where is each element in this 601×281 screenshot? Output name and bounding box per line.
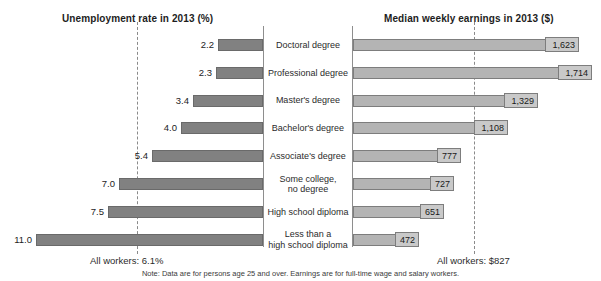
unemployment-bar — [218, 39, 263, 51]
earnings-value-label: 1,329 — [504, 93, 538, 108]
category-label: Professional degree — [266, 59, 350, 87]
earnings-value-label: 651 — [420, 204, 444, 219]
category-label: Doctoral degree — [266, 31, 350, 59]
all-workers-unemployment-label: All workers: 6.1% — [90, 255, 163, 266]
chart-row: 5.4Associate's degree777 — [0, 142, 601, 170]
right-panel-title: Median weekly earnings in 2013 ($) — [384, 13, 554, 24]
unemployment-bar — [36, 234, 263, 246]
chart-row: 2.2Doctoral degree1,623 — [0, 31, 601, 59]
unemployment-bar — [119, 178, 263, 190]
unemployment-value-label: 7.5 — [64, 205, 104, 219]
category-label: Master's degree — [266, 87, 350, 115]
unemployment-bar — [193, 95, 263, 107]
category-label-line: Doctoral degree — [276, 40, 340, 51]
unemployment-value-label: 5.4 — [108, 149, 148, 163]
all-workers-earnings-label: All workers: $827 — [437, 255, 510, 266]
unemployment-value-label: 3.4 — [149, 94, 189, 108]
chart-row: 7.0Some college,no degree727 — [0, 170, 601, 198]
education-pays-chart: Unemployment rate in 2013 (%) Median wee… — [0, 0, 601, 281]
chart-row: 2.3Professional degree1,714 — [0, 59, 601, 87]
category-label-line: Less than a — [285, 229, 332, 240]
unemployment-bar — [181, 122, 263, 134]
chart-row: 7.5High school diploma651 — [0, 198, 601, 226]
unemployment-bar — [216, 67, 263, 79]
unemployment-bar — [152, 150, 263, 162]
earnings-value-label: 472 — [395, 232, 419, 247]
category-label-line: Associate's degree — [270, 151, 346, 162]
chart-row: 3.4Master's degree1,329 — [0, 87, 601, 115]
category-label: Some college,no degree — [266, 170, 350, 198]
category-label-line: High school diploma — [267, 207, 348, 218]
chart-row: 4.0Bachelor's degree1,108 — [0, 114, 601, 142]
unemployment-bar — [108, 206, 263, 218]
category-label: Associate's degree — [266, 142, 350, 170]
category-label-line: high school diploma — [268, 240, 348, 251]
unemployment-value-label: 7.0 — [75, 177, 115, 191]
category-label-line: Some college, — [279, 174, 336, 185]
unemployment-value-label: 2.3 — [172, 66, 212, 80]
earnings-value-label: 777 — [437, 148, 461, 163]
earnings-value-label: 1,714 — [558, 65, 592, 80]
chart-note: Note: Data are for persons age 25 and ov… — [0, 269, 601, 278]
chart-row: 11.0Less than ahigh school diploma472 — [0, 226, 601, 254]
earnings-value-label: 1,623 — [545, 37, 579, 52]
earnings-bar — [353, 67, 592, 79]
category-label-line: Professional degree — [268, 68, 348, 79]
unemployment-value-label: 2.2 — [174, 38, 214, 52]
earnings-value-label: 727 — [430, 176, 454, 191]
category-label-line: Bachelor's degree — [272, 123, 344, 134]
category-label-line: Master's degree — [276, 95, 340, 106]
category-label: Less than ahigh school diploma — [266, 226, 350, 254]
category-label: Bachelor's degree — [266, 114, 350, 142]
earnings-value-label: 1,108 — [474, 120, 508, 135]
unemployment-value-label: 11.0 — [0, 233, 32, 247]
unemployment-value-label: 4.0 — [137, 121, 177, 135]
category-label: High school diploma — [266, 198, 350, 226]
category-label-line: no degree — [288, 184, 329, 195]
